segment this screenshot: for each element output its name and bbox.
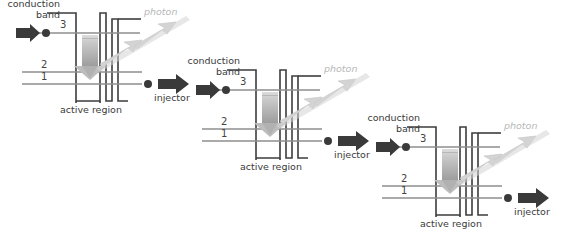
level-3-label-3: 3 <box>420 133 426 144</box>
level-3-label-2: 3 <box>240 76 246 87</box>
transition-arrow-2 <box>254 92 286 137</box>
conduction-band-label-3: conduction band <box>358 112 420 134</box>
injector-label-3: injector <box>514 206 550 217</box>
electron-in-group-1 <box>16 24 50 42</box>
electron-in-arrow-2 <box>196 81 220 99</box>
diagram-canvas: conduction band 3 2 1 photon active regi… <box>0 0 573 231</box>
conduction-text-3: conduction <box>367 112 420 123</box>
conduction-text-1: conduction <box>7 0 60 9</box>
electron-in-group-2 <box>196 81 230 99</box>
electron-in-dot-2 <box>222 86 230 94</box>
level-1-label-3: 1 <box>401 185 407 196</box>
level-1-label-1: 1 <box>41 71 47 82</box>
level-1-label-2: 1 <box>221 128 227 139</box>
transition-arrow-1 <box>74 35 106 80</box>
electron-in-group-3 <box>376 138 410 156</box>
level-2-label-1: 2 <box>41 59 47 70</box>
active-region-label-1: active region <box>60 104 122 115</box>
electron-out-dot-1 <box>144 80 152 88</box>
band-text-3: band <box>396 123 420 134</box>
conduction-text-2: conduction <box>187 55 240 66</box>
electron-out-dot-3 <box>504 194 512 202</box>
band-text-1: band <box>36 9 60 20</box>
electron-in-arrow-1 <box>16 24 40 42</box>
band-text-2: band <box>216 66 240 77</box>
active-region-label-2: active region <box>240 161 302 172</box>
conduction-band-label-1: conduction band <box>0 0 60 20</box>
electron-out-dot-2 <box>324 137 332 145</box>
level-2-label-2: 2 <box>221 116 227 127</box>
level-2-label-3: 2 <box>401 173 407 184</box>
electron-in-dot-1 <box>42 29 50 37</box>
electron-in-arrow-3 <box>376 138 400 156</box>
photon-label-1: photon <box>144 6 177 17</box>
photon-arrow-1 <box>96 16 190 72</box>
photon-label-3: photon <box>504 120 537 131</box>
electron-out-arrow-3 <box>518 188 549 208</box>
electron-out-group-3 <box>504 188 549 208</box>
photon-arrow-2 <box>276 73 370 129</box>
transition-arrow-3 <box>434 149 466 194</box>
electron-in-dot-3 <box>402 143 410 151</box>
photon-arrow-3 <box>456 130 550 186</box>
unit-cell-3: conduction band 3 2 1 photon active regi… <box>360 114 573 231</box>
active-region-label-3: active region <box>420 218 482 229</box>
photon-label-2: photon <box>324 63 357 74</box>
level-3-label-1: 3 <box>60 19 66 30</box>
conduction-band-label-2: conduction band <box>178 55 240 77</box>
